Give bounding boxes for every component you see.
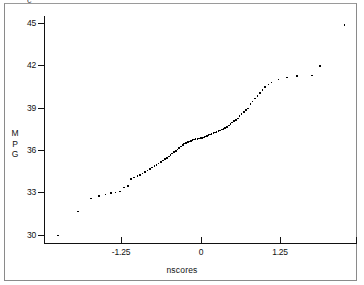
data-point [245,109,247,111]
y-axis-title-char: P [9,139,21,150]
y-axis-tick-label-wrap: 39 [8,104,36,112]
data-point [230,123,232,125]
data-point [171,153,173,155]
data-point [110,192,112,194]
data-point [177,149,179,151]
data-point [247,108,249,110]
data-point [151,167,153,169]
data-point [228,125,230,127]
data-point [237,118,239,120]
data-point [133,177,135,179]
data-point [241,113,243,115]
x-axis-tick-label: 0 [179,248,223,257]
figure-page: c 303336394245 -1.2501.25 MPG nscores [0,0,364,285]
y-axis-tick-label-wrap: 45 [8,19,36,27]
data-point [271,82,273,84]
y-axis-tick-label: 42 [10,61,36,69]
x-axis-tick-label: 1.25 [258,248,302,257]
data-point [319,65,321,67]
data-point [154,165,156,167]
data-point [173,151,175,153]
data-point [250,103,252,105]
data-point [286,77,288,79]
data-point [156,164,158,166]
data-point [262,89,264,91]
y-axis-tick-label: 45 [10,19,36,27]
y-axis-tick-label-wrap: 42 [8,61,36,69]
y-axis-title: MPG [9,128,21,160]
data-point [254,98,256,100]
data-point [139,174,141,176]
data-point [90,198,92,200]
data-point [182,144,184,146]
data-point [252,101,254,103]
data-point [231,122,233,124]
data-point [57,235,59,237]
data-point [180,146,182,148]
clipped-glyph: c [27,0,37,4]
y-axis-tick-label: 30 [10,231,36,239]
data-point [162,160,164,162]
data-point [268,84,270,86]
data-point [311,75,313,77]
data-point [147,170,149,172]
data-point [259,92,261,94]
data-point [226,126,228,128]
data-point [224,127,226,129]
data-point [142,173,144,175]
data-point [243,111,245,113]
data-point [127,185,129,187]
data-point [160,161,162,163]
data-point [235,119,237,121]
data-point [233,120,235,122]
data-point [123,187,125,189]
data-point [158,163,160,165]
y-axis-title-char: M [9,128,21,139]
y-axis-tick-label: 39 [10,104,36,112]
data-point [144,171,146,173]
data-point [119,191,121,193]
data-point [130,178,132,180]
data-point [137,175,139,177]
y-axis-tick-label: 33 [10,188,36,196]
x-axis-tick-label: -1.25 [99,248,143,257]
data-point [170,154,172,156]
data-point [178,147,180,149]
data-point [257,95,259,97]
data-point [105,194,107,196]
data-point [166,157,168,159]
y-axis-tick-label-wrap: 30 [8,231,36,239]
x-axis-title: nscores [0,265,364,275]
data-point [98,195,100,197]
data-point [149,168,151,170]
data-point [164,158,166,160]
data-point [115,192,117,194]
y-axis-tick-label-wrap: 33 [8,188,36,196]
scatter-plot-area [44,16,357,243]
data-point [264,86,266,88]
data-point [278,79,280,81]
y-axis-title-char: G [9,149,21,160]
data-point [175,150,177,152]
data-point [296,75,298,77]
data-point [344,24,346,26]
data-point [77,211,79,213]
data-point [168,156,170,158]
data-point [239,115,241,117]
